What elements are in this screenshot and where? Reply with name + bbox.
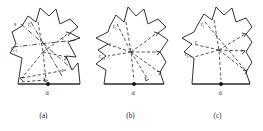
basepoint-d-b bbox=[132, 82, 136, 86]
chord-dashed-a-5 bbox=[22, 70, 66, 78]
chord-dashed-c-2 bbox=[219, 34, 245, 50]
polygon-outline-b bbox=[96, 7, 168, 84]
label-ri-b: ri bbox=[113, 23, 116, 31]
figure-panel-c: ri r ri-1 d bbox=[174, 0, 263, 112]
label-ri-c: ri bbox=[201, 21, 204, 29]
label-rmid-c: r bbox=[195, 39, 197, 45]
caption-a: (a) bbox=[0, 112, 87, 120]
arrow-tick-a-1 bbox=[66, 32, 70, 36]
chord-dashdot-a-1 bbox=[21, 24, 72, 69]
label-rprev-a-sub: i-1 bbox=[13, 49, 17, 53]
label-ri-c-sub: i bbox=[203, 25, 204, 29]
label-d-b: d bbox=[132, 89, 136, 96]
chord-dashed-c-7 bbox=[219, 50, 246, 71]
label-d-a: d bbox=[46, 89, 50, 96]
label-rprev-b-sub: i-1 bbox=[101, 57, 105, 61]
label-d-c: d bbox=[219, 89, 223, 96]
figure-panel-a: s ri ri-1 r r d bbox=[0, 0, 87, 112]
basepoint-d-a bbox=[46, 82, 50, 86]
chord-dashed-c-3 bbox=[219, 50, 244, 51]
label-rprev-c: ri-1 bbox=[185, 51, 191, 59]
label-s-a: s bbox=[14, 21, 16, 27]
chord-dashed-c-6 bbox=[205, 22, 246, 71]
label-rprev-b: ri-1 bbox=[99, 53, 105, 61]
arrow-tick-b-1 bbox=[154, 32, 158, 36]
label-r-right-a: r bbox=[62, 35, 64, 41]
label-rprev-c-sub: i-1 bbox=[187, 55, 191, 59]
chord-dashed-a-3 bbox=[43, 52, 67, 57]
label-r-lower-a: r bbox=[62, 67, 64, 73]
chord-dashdot-a-3 bbox=[13, 40, 76, 47]
label-ri-a-sub: i bbox=[30, 25, 31, 29]
chord-dashed-b-4 bbox=[108, 52, 131, 56]
arrow-tick-b-4 bbox=[145, 77, 149, 81]
caption-c: (c) bbox=[174, 112, 261, 120]
label-ri-a: ri bbox=[28, 21, 31, 29]
chord-dashed-b-2 bbox=[131, 33, 157, 52]
label-ri-b-sub: i bbox=[115, 27, 116, 31]
chord-dashed-b-6 bbox=[131, 52, 147, 78]
chord-dashdot-a-2 bbox=[31, 22, 62, 76]
figure-root: s ri ri-1 r r d bbox=[0, 0, 263, 131]
arrow-tick-b-2 bbox=[156, 51, 160, 55]
caption-b: (b) bbox=[87, 112, 174, 120]
chord-dashed-c-5 bbox=[194, 50, 219, 57]
chord-dashed-a-6 bbox=[20, 80, 46, 82]
basepoint-d-c bbox=[219, 82, 223, 86]
chord-dashed-c-4 bbox=[193, 44, 219, 50]
polygon-outline-c bbox=[182, 7, 252, 84]
chord-dashed-b-7 bbox=[131, 52, 159, 72]
figure-panel-b: ri r ri-1 d bbox=[87, 0, 174, 112]
chord-dashed-a-4 bbox=[22, 52, 43, 78]
label-rmid-b: r bbox=[109, 41, 111, 47]
